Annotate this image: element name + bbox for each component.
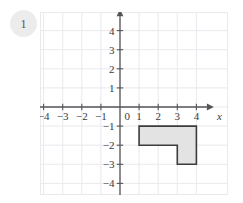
- y-tick-label: 4: [109, 25, 115, 37]
- x-axis-label: x: [216, 110, 222, 122]
- y-tick-label: 2: [109, 63, 115, 75]
- y-tick-label: −1: [103, 120, 115, 132]
- x-tick-label: 4: [194, 110, 200, 122]
- x-tick-label: 2: [155, 110, 161, 122]
- y-tick-label: −4: [103, 177, 115, 189]
- x-tick-label: 0: [125, 110, 131, 122]
- problem-number-label: 1: [21, 18, 27, 30]
- grid-frame: [41, 13, 228, 195]
- problem-number-badge: 1: [10, 10, 37, 37]
- l-shaped-polygon: [139, 126, 196, 164]
- y-tick-label: −3: [103, 158, 115, 170]
- shape-layer: [139, 126, 196, 164]
- axes: [40, 12, 214, 195]
- x-tick-label: −4: [40, 110, 50, 122]
- y-tick-label: 1: [109, 82, 115, 94]
- y-tick-label: −2: [103, 139, 115, 151]
- x-tick-label: 3: [175, 110, 181, 122]
- grid-lines: [40, 12, 228, 195]
- x-tick-label: −2: [76, 110, 88, 122]
- coordinate-grid-svg: −4−3−2−1012344321−1−2−3−4xy: [40, 12, 228, 195]
- x-axis-arrow: [207, 104, 214, 111]
- x-tick-label: 1: [136, 110, 142, 122]
- y-tick-label: 3: [109, 44, 115, 56]
- figure-root: 1 −4−3−2−1012344321−1−2−3−4xy: [0, 0, 243, 203]
- coordinate-plane: −4−3−2−1012344321−1−2−3−4xy: [40, 12, 228, 195]
- x-tick-label: −3: [57, 110, 69, 122]
